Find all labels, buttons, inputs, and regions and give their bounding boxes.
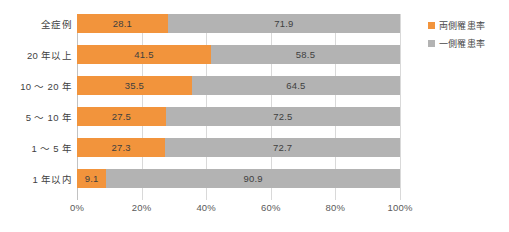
bar-segment-primary: 35.5 (77, 76, 192, 95)
legend-swatch-icon (428, 22, 435, 29)
bar-segment-primary: 41.5 (77, 45, 211, 64)
bar-value-label: 27.5 (112, 112, 131, 122)
bar-value-label: 64.5 (286, 81, 305, 91)
legend-label: 一側罹患率 (439, 37, 485, 50)
gridline-100 (400, 14, 401, 200)
x-axis: 0% 20% 40% 60% 80% 100% (77, 200, 400, 216)
bar-row: 9.1 90.9 (77, 169, 400, 188)
bar-value-label: 9.1 (85, 174, 99, 184)
bar-value-label: 71.9 (274, 19, 293, 29)
bar-row: 27.5 72.5 (77, 107, 400, 126)
stacked-bar-chart: 全症例 20 年以上 10 ～ 20 年 5 ～ 10 年 1 ～ 5 年 1 … (0, 0, 509, 232)
bar-value-label: 72.7 (273, 143, 292, 153)
plot-area: 28.1 71.9 41.5 58.5 35.5 64.5 (77, 14, 400, 200)
bar-segment-secondary: 90.9 (106, 169, 400, 188)
category-label: 1 ～ 5 年 (0, 138, 72, 157)
bar-value-label: 41.5 (134, 50, 153, 60)
bar-segment-secondary: 71.9 (168, 14, 400, 33)
bar-row: 41.5 58.5 (77, 45, 400, 64)
bar-segment-primary: 9.1 (77, 169, 106, 188)
chart-legend: 両側罹患率 一側罹患率 (428, 19, 485, 50)
legend-label: 両側罹患率 (439, 19, 485, 32)
bar-value-label: 58.5 (296, 50, 315, 60)
x-tick-label: 0% (70, 202, 84, 213)
category-label: 10 ～ 20 年 (0, 76, 72, 95)
legend-item-primary: 両側罹患率 (428, 19, 485, 32)
bar-segment-secondary: 72.7 (165, 138, 400, 157)
bar-value-label: 35.5 (125, 81, 144, 91)
legend-item-secondary: 一側罹患率 (428, 37, 485, 50)
bar-row: 35.5 64.5 (77, 76, 400, 95)
bar-segment-primary: 28.1 (77, 14, 168, 33)
bar-segment-secondary: 72.5 (166, 107, 400, 126)
category-label: 5 ～ 10 年 (0, 107, 72, 126)
category-label: 全症例 (0, 14, 72, 33)
bar-value-label: 72.5 (273, 112, 292, 122)
category-axis: 全症例 20 年以上 10 ～ 20 年 5 ～ 10 年 1 ～ 5 年 1 … (0, 14, 72, 200)
x-tick-label: 80% (326, 202, 346, 213)
bar-segment-secondary: 58.5 (211, 45, 400, 64)
x-tick-label: 20% (132, 202, 152, 213)
x-tick-label: 100% (387, 202, 412, 213)
bar-value-label: 27.3 (111, 143, 130, 153)
category-label: 1 年以内 (0, 169, 72, 188)
bar-segment-primary: 27.3 (77, 138, 165, 157)
category-label: 20 年以上 (0, 45, 72, 64)
bar-segment-primary: 27.5 (77, 107, 166, 126)
x-tick-label: 40% (196, 202, 216, 213)
bar-value-label: 90.9 (244, 174, 263, 184)
bar-segment-secondary: 64.5 (192, 76, 400, 95)
bar-row: 28.1 71.9 (77, 14, 400, 33)
bar-value-label: 28.1 (113, 19, 132, 29)
bar-row: 27.3 72.7 (77, 138, 400, 157)
x-tick-label: 60% (261, 202, 281, 213)
legend-swatch-icon (428, 40, 435, 47)
